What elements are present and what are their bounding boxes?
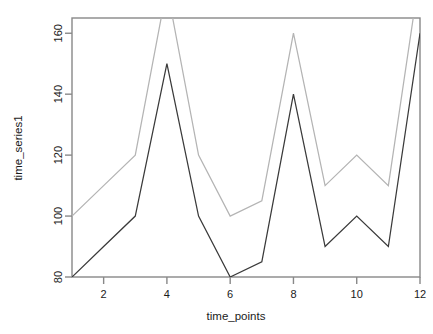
x-tick-label: 10 xyxy=(351,288,363,300)
x-axis-title: time_points xyxy=(207,310,266,322)
y-tick-label: 120 xyxy=(52,146,64,164)
y-tick-label: 140 xyxy=(52,85,64,103)
y-tick-label: 160 xyxy=(52,24,64,42)
y-axis-title: time_series1 xyxy=(12,115,24,180)
y-tick-label: 80 xyxy=(52,271,64,283)
y-tick-label: 100 xyxy=(52,207,64,225)
chart-container: 80100120140160 24681012 time_series1 tim… xyxy=(0,0,433,334)
x-tick-label: 6 xyxy=(227,288,233,300)
x-tick-label: 12 xyxy=(414,288,426,300)
x-tick-label: 4 xyxy=(164,288,170,300)
x-tick-label: 8 xyxy=(290,288,296,300)
chart-background xyxy=(0,0,433,334)
x-tick-label: 2 xyxy=(101,288,107,300)
line-chart: 80100120140160 24681012 time_series1 tim… xyxy=(0,0,433,334)
